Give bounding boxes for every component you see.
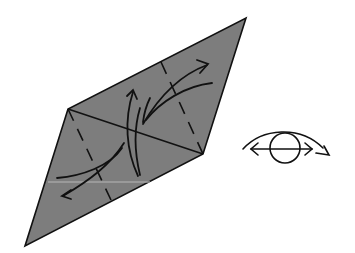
origami-diagram <box>0 0 355 253</box>
turn-over-eye-icon <box>243 132 329 163</box>
